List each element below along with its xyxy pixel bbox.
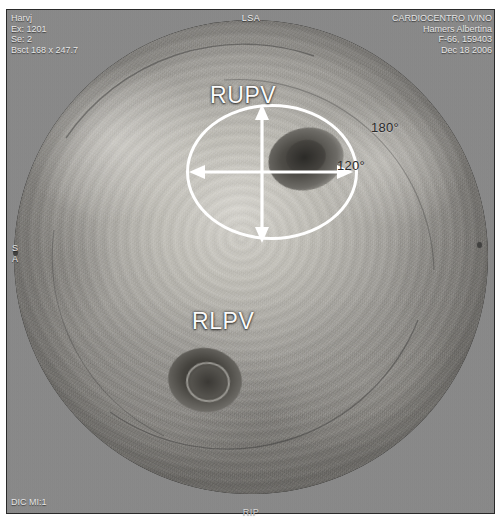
label-angle-180: 180° — [371, 120, 399, 135]
left-edge-line-2: A — [12, 254, 18, 265]
tl-line-4: Bsct 168 x 247.7 — [11, 45, 78, 56]
label-rlpv: RLPV — [192, 308, 254, 335]
patient-name: Hamers Albertina — [392, 24, 492, 35]
ultrasound-viewer: RUPV RLPV 180° 120° Harvj Ex: 1201 Se: 2… — [0, 0, 502, 523]
label-angle-120: 120° — [337, 158, 365, 173]
annotation-top-right: CARDIOCENTRO IVINO Hamers Albertina F-66… — [392, 13, 492, 55]
orientation-label-top: LSA — [242, 13, 261, 23]
tl-line-2: Ex: 1201 — [11, 24, 78, 35]
tl-line-3: Se: 2 — [11, 34, 78, 45]
annotation-left-edge: S A — [12, 243, 18, 265]
patient-id: F-66, 159403 — [392, 34, 492, 45]
left-edge-line-1: S — [12, 243, 18, 254]
label-rupv: RUPV — [210, 82, 276, 109]
annotation-bottom-left: DIC MI:1 — [11, 497, 47, 508]
rim-marker-right — [477, 242, 482, 248]
institution-name: CARDIOCENTRO IVINO — [392, 13, 492, 24]
study-date: Dec 18 2006 — [392, 45, 492, 56]
bl-line-1: DIC MI:1 — [11, 497, 47, 508]
annotation-top-left: Harvj Ex: 1201 Se: 2 Bsct 168 x 247.7 — [11, 13, 78, 55]
tl-line-1: Harvj — [11, 13, 78, 24]
orientation-label-bottom: RIP — [243, 507, 260, 517]
roi-measurement-ellipse[interactable] — [186, 104, 358, 240]
